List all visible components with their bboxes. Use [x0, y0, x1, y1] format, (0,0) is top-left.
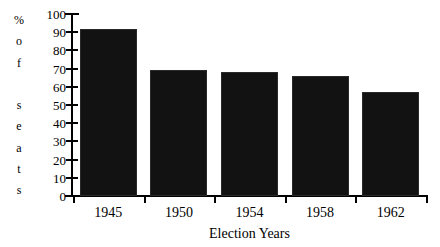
x-axis-tick: [355, 195, 357, 203]
y-axis-tick-label: 100: [30, 8, 66, 21]
y-axis-tick-label: 60: [30, 80, 66, 93]
y-axis-title-char: s: [17, 184, 22, 196]
x-axis-tick-label: 1958: [306, 205, 334, 221]
y-axis-tick-label: 30: [30, 135, 66, 148]
y-axis-title: %of seats: [8, 14, 30, 196]
bar: [292, 76, 349, 196]
y-axis-title-char: s: [17, 99, 22, 111]
bar: [150, 70, 207, 196]
x-axis-tick-label: 1954: [236, 205, 264, 221]
bar-chart: %of seats 0102030405060708090100 1945195…: [0, 0, 440, 247]
y-axis-tick-label: 10: [30, 171, 66, 184]
y-axis-tick-label: 80: [30, 44, 66, 57]
y-axis-title-char: f: [17, 57, 21, 69]
x-axis-tick: [73, 195, 75, 203]
y-axis-title-char: t: [17, 163, 20, 175]
x-axis-tick-labels: 19451950195419581962: [73, 205, 426, 225]
y-axis-title-char: %: [14, 14, 24, 26]
y-axis-tick-label: 50: [30, 99, 66, 112]
bar: [221, 72, 278, 196]
y-axis-tick-label: 0: [30, 190, 66, 203]
y-axis-title-char: a: [16, 142, 21, 154]
bar: [80, 29, 137, 196]
x-axis-tick-label: 1945: [94, 205, 122, 221]
x-axis-tick: [285, 195, 287, 203]
x-axis-title: Election Years: [73, 226, 426, 242]
y-axis-tick-label: 90: [30, 26, 66, 39]
x-axis-tick-label: 1962: [377, 205, 405, 221]
y-axis-tick-label: 40: [30, 117, 66, 130]
y-axis-tick-label: 70: [30, 62, 66, 75]
x-axis-tick-label: 1950: [165, 205, 193, 221]
y-axis-tick-labels: 0102030405060708090100: [30, 0, 66, 247]
y-axis-title-char: o: [16, 35, 22, 47]
bar: [362, 92, 419, 196]
y-axis-tick-label: 20: [30, 153, 66, 166]
x-axis-tick: [144, 195, 146, 203]
x-axis-tick: [426, 195, 428, 203]
y-axis-title-char: e: [16, 120, 21, 132]
x-axis-tick: [214, 195, 216, 203]
plot-area: [73, 14, 426, 196]
